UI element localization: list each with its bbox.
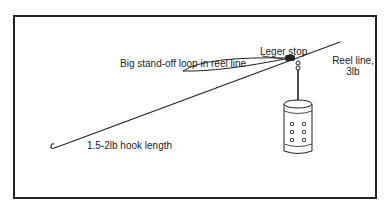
swimfeeder-icon bbox=[284, 100, 312, 154]
label-reel-line-1: Reel line, bbox=[328, 55, 378, 66]
swivel-icon bbox=[296, 61, 300, 100]
label-standoff-loop: Big stand-off loop in reel line bbox=[120, 58, 246, 69]
label-reel-line-2: 3lb bbox=[328, 66, 378, 77]
label-hook-length: 1.5-2lb hook length bbox=[87, 140, 172, 151]
hook-icon bbox=[51, 144, 60, 149]
label-leger-stop: Leger stop bbox=[260, 46, 307, 57]
rig-diagram bbox=[0, 0, 392, 215]
label-reel-line: Reel line, 3lb bbox=[328, 55, 378, 77]
